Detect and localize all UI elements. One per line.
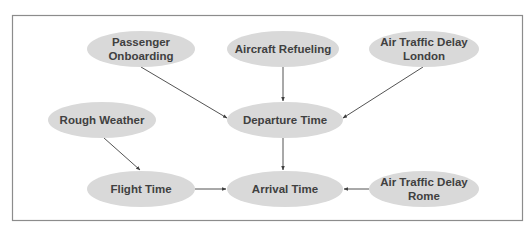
node-label: Air Traffic Delay bbox=[380, 176, 468, 188]
node-atd-rome: Air Traffic DelayRome bbox=[369, 171, 479, 207]
node-label: Flight Time bbox=[110, 183, 171, 195]
node-rough-weather: Rough Weather bbox=[48, 102, 156, 138]
node-departure-time: Departure Time bbox=[227, 102, 343, 138]
node-label: Air Traffic Delay bbox=[380, 36, 468, 48]
node-label: Arrival Time bbox=[252, 183, 318, 195]
diagram-canvas: PassengerOnboardingAircraft RefuelingAir… bbox=[0, 0, 531, 236]
node-label: Aircraft Refueling bbox=[235, 43, 332, 55]
node-arrival-time: Arrival Time bbox=[227, 171, 343, 207]
node-aircraft-refueling: Aircraft Refueling bbox=[227, 31, 339, 67]
node-label: Rome bbox=[408, 190, 440, 202]
node-label: Passenger bbox=[112, 36, 171, 48]
node-atd-london: Air Traffic DelayLondon bbox=[369, 31, 479, 67]
node-label: Departure Time bbox=[243, 114, 327, 126]
node-label: Onboarding bbox=[108, 50, 173, 62]
node-label: London bbox=[403, 50, 445, 62]
node-passenger-onboarding: PassengerOnboarding bbox=[87, 31, 195, 67]
node-label: Rough Weather bbox=[60, 114, 145, 126]
node-flight-time: Flight Time bbox=[87, 171, 195, 207]
